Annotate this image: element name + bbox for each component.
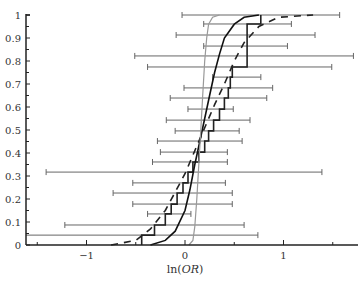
error-bar bbox=[213, 74, 261, 80]
error-bar bbox=[176, 32, 315, 38]
axes: 00.10.20.30.40.50.60.70.80.91−101 bbox=[5, 10, 358, 262]
x-tick-label: 1 bbox=[280, 250, 286, 261]
error-bar bbox=[204, 43, 288, 49]
series-lines bbox=[111, 15, 313, 245]
fitted-cdf-dashed bbox=[111, 15, 313, 245]
y-tick-label: 1 bbox=[15, 10, 21, 21]
x-axis-label: ln(OR) bbox=[167, 263, 204, 276]
y-tick-label: 0 bbox=[15, 240, 21, 251]
error-bar bbox=[133, 201, 232, 207]
y-tick-label: 0.2 bbox=[5, 194, 21, 205]
cdf-chart: 00.10.20.30.40.50.60.70.80.91−101 ln(OR) bbox=[0, 0, 361, 283]
error-bar bbox=[175, 128, 239, 134]
y-tick-label: 0.8 bbox=[5, 56, 21, 67]
error-bar bbox=[170, 95, 267, 101]
error-bar bbox=[135, 53, 354, 59]
x-tick-label: 0 bbox=[182, 250, 188, 261]
x-tick-label: −1 bbox=[79, 250, 94, 261]
y-tick-label: 0.7 bbox=[5, 79, 21, 90]
y-tick-label: 0.1 bbox=[5, 217, 21, 228]
y-tick-label: 0.6 bbox=[5, 102, 21, 113]
error-bars bbox=[26, 12, 353, 238]
y-tick-label: 0.9 bbox=[5, 33, 21, 44]
y-tick-label: 0.5 bbox=[5, 125, 21, 136]
error-bar bbox=[188, 106, 233, 112]
normal-cdf-solid bbox=[151, 15, 259, 245]
y-tick-label: 0.3 bbox=[5, 171, 21, 182]
y-tick-label: 0.4 bbox=[5, 148, 21, 159]
